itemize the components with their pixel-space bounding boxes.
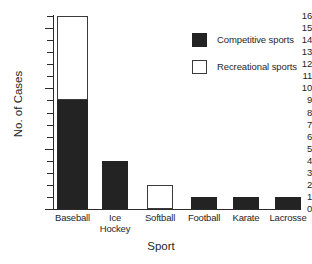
y-tick-16 xyxy=(47,16,53,17)
x-tick-label-lacrosse: Lacrosse xyxy=(253,213,312,224)
legend-swatch-competitive-icon xyxy=(192,33,207,47)
bar-softball-recreational xyxy=(147,185,173,209)
y-tick-11 xyxy=(47,76,53,77)
x-axis-line xyxy=(53,209,301,210)
y-axis-line xyxy=(53,15,54,210)
y-tick-label-13: 13 xyxy=(271,47,312,57)
bar-ice-hockey-competitive xyxy=(102,161,128,209)
y-tick-3 xyxy=(47,173,53,174)
bar-lacrosse-competitive xyxy=(275,197,301,209)
y-tick-15 xyxy=(45,28,53,29)
y-tick-13 xyxy=(47,52,53,53)
y-tick-9 xyxy=(47,100,53,101)
legend-label-recreational: Recreational sports xyxy=(217,61,297,72)
y-tick-label-3: 3 xyxy=(271,168,312,178)
y-tick-7 xyxy=(47,125,53,126)
y-tick-12 xyxy=(47,64,53,65)
y-tick-label-8: 8 xyxy=(271,108,312,118)
y-tick-label-4: 4 xyxy=(271,156,312,166)
legend-label-competitive: Competitive sports xyxy=(217,34,294,45)
bar-baseball-competitive xyxy=(57,100,88,209)
y-tick-label-2: 2 xyxy=(271,180,312,190)
y-tick-4 xyxy=(47,161,53,162)
y-tick-label-15: 15 xyxy=(271,23,312,33)
y-tick-8 xyxy=(47,113,53,114)
y-tick-14 xyxy=(47,40,53,41)
y-tick-label-5: 5 xyxy=(271,144,312,154)
y-tick-label-7: 7 xyxy=(271,120,312,130)
x-axis-title: Sport xyxy=(106,240,216,252)
y-tick-label-6: 6 xyxy=(271,132,312,142)
bar-chart-figure: 012345678910111213141516 BaseballIce Hoc… xyxy=(0,0,312,264)
y-tick-1 xyxy=(47,197,53,198)
bar-baseball-recreational xyxy=(57,16,88,100)
y-tick-label-10: 10 xyxy=(271,83,312,93)
bar-karate-competitive xyxy=(233,197,259,209)
y-tick-2 xyxy=(47,185,53,186)
bar-football-competitive xyxy=(191,197,217,209)
plot-area: 012345678910111213141516 BaseballIce Hoc… xyxy=(0,0,312,264)
y-tick-label-9: 9 xyxy=(271,95,312,105)
y-tick-5 xyxy=(45,149,53,150)
legend-swatch-recreational-icon xyxy=(192,60,207,74)
y-tick-label-16: 16 xyxy=(271,11,312,21)
y-tick-label-11: 11 xyxy=(271,71,312,81)
y-tick-0 xyxy=(45,209,53,210)
y-axis-title: No. of Cases xyxy=(12,34,24,174)
y-tick-6 xyxy=(47,137,53,138)
y-tick-10 xyxy=(45,88,53,89)
